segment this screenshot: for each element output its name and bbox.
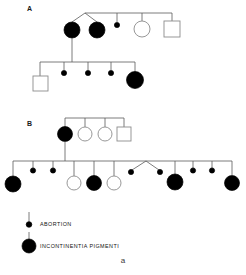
figure-caption: a [0,256,246,265]
panel-b-gen2-individual-11 [209,168,214,173]
panel-b-descent-lines [13,142,232,177]
legend-label-abortion: ABORTION [40,221,72,227]
panel-a-gen2-individual-2 [61,70,66,75]
pedigree-panel-b [5,118,240,192]
panel-b-gen2-individual-4 [67,176,81,190]
panel-a-gen2-individual-4 [108,70,113,75]
panel-a-gen1-individual-5 [164,21,180,37]
legend [22,212,36,253]
panel-a-gen1-individual-4 [134,21,150,37]
pedigree-figure: A B [0,0,246,275]
panel-b-gen2-individual-2 [30,168,35,173]
panel-b-gen2-individual-12 [225,176,240,191]
panel-b-gen1-individual-1 [58,127,73,142]
panel-b-gen2-individual-1 [5,176,21,192]
panel-b-gen1-individual-3 [98,127,112,141]
panel-label-b: B [27,120,32,127]
panel-b-gen1-individual-2 [78,127,92,141]
panel-a-gen2-individual-5 [127,72,144,89]
legend-label-incontinentia-pigmenti: INCONTINENTIA PIGMENTI [40,243,119,249]
legend-incontinentia-pigmenti-icon [22,239,36,253]
panel-b-gen2-individual-10 [190,168,195,173]
panel-a-gen1-individual-3 [114,22,119,27]
panel-b-generation-1-lines [65,118,124,127]
panel-b-gen2-individual-3 [50,168,55,173]
panel-a-generation-1-lines [72,13,172,22]
panel-b-gen2-individual-8 [157,169,162,174]
panel-a-gen2-individual-3 [85,70,90,75]
panel-a-gen1-individual-2 [89,22,105,38]
panel-b-gen2-individual-9 [167,174,183,190]
panel-a-gen2-individual-1 [33,76,48,91]
panel-b-gen2-individual-7 [128,169,133,174]
panel-b-gen1-individual-4 [117,127,131,141]
pedigree-panel-a [33,13,180,91]
panel-label-a: A [27,5,32,12]
legend-abortion-icon [26,222,32,228]
panel-b-gen2-individual-6 [107,176,121,190]
panel-a-gen1-individual-1 [64,22,80,38]
pedigree-drawing [0,0,246,275]
panel-b-gen2-individual-5 [87,176,102,191]
